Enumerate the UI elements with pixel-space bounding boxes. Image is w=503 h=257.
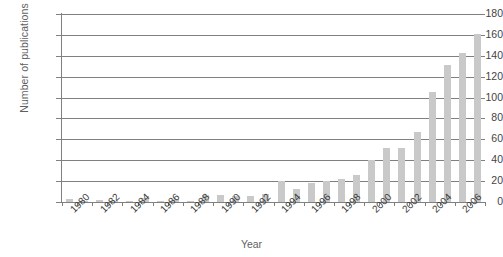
x-axis-tick-mark [394,202,395,206]
x-axis-tick-mark [243,202,244,206]
x-axis-tick-mark [213,202,214,206]
x-axis-tick-mark [334,202,335,206]
x-axis-tick-mark [364,202,365,206]
gridline [62,118,485,119]
bar [459,53,466,202]
x-axis-line [56,202,485,203]
bar [398,148,405,202]
gridline [62,56,485,57]
gridline [62,77,485,78]
x-axis-tick-mark [485,202,486,206]
gridline [62,160,485,161]
x-axis-title: Year [0,238,503,250]
bar [278,181,285,202]
x-axis-tick-mark [183,202,184,206]
bar [368,160,375,202]
x-axis-tick-mark [274,202,275,206]
x-axis-tick-mark [122,202,123,206]
bar [338,179,345,202]
bar-chart: Number of publications 18016014012010080… [0,0,503,257]
x-axis-tick-mark [425,202,426,206]
x-axis-tick-mark [92,202,93,206]
bar [217,195,224,202]
x-axis-tick-mark [153,202,154,206]
bar [429,92,436,202]
gridline [62,139,485,140]
gridline [62,181,485,182]
gridline [62,35,485,36]
bar [308,183,315,202]
plot-area [62,14,485,202]
x-axis-tick-mark [304,202,305,206]
y-axis-title: Number of publications [18,0,30,138]
bar [474,34,481,202]
x-axis-tick-mark [62,202,63,206]
x-axis-tick-mark [455,202,456,206]
bar [444,65,451,202]
gridline [62,14,485,15]
gridline [62,98,485,99]
